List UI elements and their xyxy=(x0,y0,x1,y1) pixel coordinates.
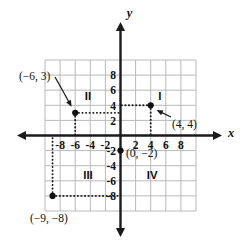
y-tick-label: -6 xyxy=(106,175,116,187)
y-tick-label: -4 xyxy=(106,160,116,172)
point-4-4 xyxy=(148,102,154,108)
point-0-neg2 xyxy=(117,148,123,154)
coordinate-plane-figure: -8-6-4-224688642-2-4-6-8 (−6, 3)(4, 4)(0… xyxy=(0,0,246,244)
y-tick-label: 4 xyxy=(110,100,116,112)
y-tick-label: -2 xyxy=(106,145,116,157)
y-tick-label: 8 xyxy=(110,69,116,81)
x-tick-label: 6 xyxy=(163,139,169,151)
point-label-neg6-3: (−6, 3) xyxy=(19,70,51,83)
point-label-4-4: (4, 4) xyxy=(172,118,197,131)
quadrant-3: III xyxy=(83,169,93,181)
quadrant-1: I xyxy=(158,90,161,102)
y-tick-label: 2 xyxy=(110,115,116,127)
x-axis-name: x xyxy=(227,126,234,140)
coordinate-plane-svg: -8-6-4-224688642-2-4-6-8 (−6, 3)(4, 4)(0… xyxy=(0,0,246,244)
y-tick-label: 6 xyxy=(110,84,116,96)
point-neg9-neg8 xyxy=(49,193,55,199)
point-label-neg9-neg8: (−9, −8) xyxy=(30,212,68,225)
quadrant-4: IV xyxy=(147,169,158,181)
figure-background xyxy=(0,0,246,244)
x-tick-label: -4 xyxy=(86,139,96,151)
x-tick-label: 8 xyxy=(178,139,184,151)
point-neg6-3 xyxy=(72,110,78,116)
x-tick-label: -8 xyxy=(55,139,65,151)
y-axis-name: y xyxy=(125,6,133,20)
quadrant-2: II xyxy=(85,90,91,102)
point-label-0-neg2: (0, −2) xyxy=(126,147,158,160)
x-tick-label: -6 xyxy=(70,139,80,151)
